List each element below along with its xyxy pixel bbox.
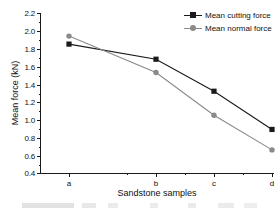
legend-label: Mean cutting force (205, 11, 271, 20)
circle-marker (269, 147, 274, 152)
chart-legend: Mean cutting force Mean normal force (184, 10, 272, 34)
circle-marker (153, 70, 158, 75)
legend-swatch-normal (184, 24, 202, 33)
square-marker (153, 57, 158, 62)
square-marker (211, 89, 216, 94)
circle-marker (211, 113, 216, 118)
square-marker (66, 42, 71, 47)
line-mean-normal-force (69, 36, 272, 150)
square-marker-icon (190, 12, 196, 18)
circle-marker (66, 33, 71, 38)
markers-mean-normal-force (66, 33, 274, 152)
legend-label: Mean normal force (205, 24, 272, 33)
legend-swatch-cutting (184, 11, 202, 20)
legend-item-mean-cutting-force: Mean cutting force (184, 10, 272, 21)
circle-marker-icon (190, 25, 196, 31)
line-mean-cutting-force (69, 44, 272, 129)
clipped-caption-remnant (22, 203, 257, 208)
chart-figure: Mean force (kN) 2.2 2.0 1.8 1.6 1.4 1.2 … (0, 0, 279, 211)
square-marker (269, 127, 274, 132)
legend-item-mean-normal-force: Mean normal force (184, 23, 272, 34)
markers-mean-cutting-force (66, 42, 274, 133)
